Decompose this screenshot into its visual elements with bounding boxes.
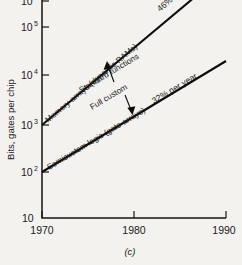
ytick-label-1e4-mantissa: 10	[21, 69, 33, 81]
xtick-label-1970: 1970	[30, 224, 54, 236]
y-axis-title: Bits, gates per chip	[5, 79, 16, 160]
ytick-label-1e3-exponent: 3	[34, 118, 38, 125]
figure-caption: (c)	[124, 246, 135, 257]
ytick-label-1e5-exponent: 5	[34, 20, 38, 27]
ytick-label-1e3-mantissa: 10	[21, 119, 33, 131]
chart-svg: 10 6 10 5 10 4 10 3 10 2 10	[0, 0, 242, 265]
ytick-label-1e5-mantissa: 10	[21, 21, 33, 33]
xtick-label-1980: 1980	[122, 224, 146, 236]
xtick-label-1990: 1990	[212, 224, 236, 236]
ytick-label-1e6-exponent: 6	[34, 0, 38, 1]
ytick-label-1e6-mantissa: 10	[21, 0, 33, 7]
ytick-label-1e2-exponent: 2	[34, 165, 38, 172]
ytick-label-1e1-mantissa: 10	[22, 212, 34, 224]
ytick-label-1e1: 10	[22, 212, 34, 224]
ytick-label-1e4-exponent: 4	[34, 68, 38, 75]
ytick-label-1e2-mantissa: 10	[21, 166, 33, 178]
figure-container: 10 6 10 5 10 4 10 3 10 2 10	[0, 0, 242, 265]
